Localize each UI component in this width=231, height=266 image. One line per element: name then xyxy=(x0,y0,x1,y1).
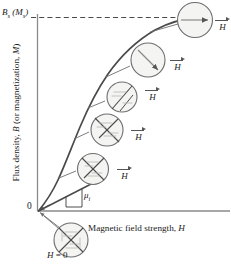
y-axis-label-pre: Flux density, xyxy=(11,132,21,182)
field-arrow-text-2: H xyxy=(135,132,142,142)
initial-permeability-sub: i xyxy=(89,195,91,202)
x-axis-label-h: H xyxy=(178,223,185,233)
field-arrow-label-3: H xyxy=(145,87,160,102)
right-arrow-icon xyxy=(131,127,146,132)
field-arrow-label-5: H xyxy=(215,17,230,32)
domain-3 xyxy=(107,82,137,112)
magnetization-curve-figure: Bs (Ms) Flux density, B (or magnetizatio… xyxy=(0,0,231,266)
right-arrow-icon xyxy=(215,17,230,22)
field-arrow-text-3: H xyxy=(149,92,156,102)
y-axis-label-post: ) xyxy=(11,44,21,47)
magnetization-curve xyxy=(39,18,197,211)
field-arrow-text-5: H xyxy=(219,22,226,32)
domain-5-saturated xyxy=(178,3,213,38)
domain-4 xyxy=(131,43,165,77)
field-arrow-text-1: H xyxy=(121,171,128,181)
x-axis-label: Magnetic field strength, H xyxy=(88,224,185,233)
zero-field-label: H = 0 xyxy=(47,251,68,260)
y-axis-label: Flux density, B (or magnetization, M) xyxy=(12,38,21,188)
zero-field-rest: = 0 xyxy=(54,250,68,260)
saturation-paren-close: ) xyxy=(25,7,28,17)
domain-1 xyxy=(78,154,109,185)
domain-2 xyxy=(91,114,123,146)
field-arrow-label-4: H xyxy=(170,57,185,72)
initial-permeability-label: μi xyxy=(84,191,90,202)
field-arrow-label-1: H xyxy=(117,166,132,181)
y-axis-label-b: B xyxy=(11,126,21,132)
origin-label: 0 xyxy=(27,202,32,212)
saturation-paren-open: (M xyxy=(10,7,23,17)
y-axis-label-m: M xyxy=(11,47,21,55)
saturation-label: Bs (Ms) xyxy=(2,8,28,19)
right-arrow-icon xyxy=(145,87,160,92)
right-arrow-icon xyxy=(117,166,132,171)
field-arrow-text-4: H xyxy=(174,62,181,72)
x-axis-label-pre: Magnetic field strength, xyxy=(88,223,178,233)
leader-line-zero xyxy=(44,216,58,228)
right-arrow-icon xyxy=(170,57,185,62)
origin-pointer-lower xyxy=(40,213,60,229)
field-arrow-label-2: H xyxy=(131,127,146,142)
y-axis-label-mid: (or magnetization, xyxy=(11,54,21,126)
